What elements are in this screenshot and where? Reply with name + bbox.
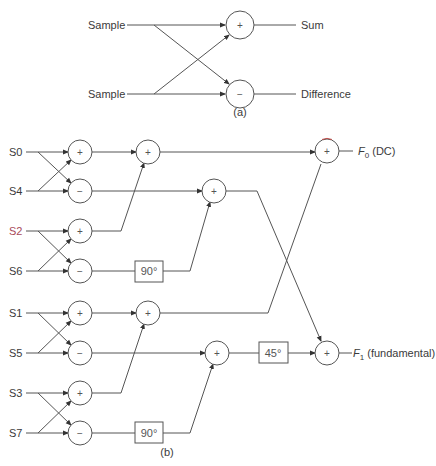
wire-a-cross-down	[154, 25, 229, 84]
butterfly-s0-s4	[26, 152, 71, 191]
plus-icon: +	[214, 348, 220, 359]
input-label-s3: S3	[9, 387, 22, 399]
minus-icon: −	[237, 89, 243, 100]
butterfly-s1-s5	[26, 313, 71, 353]
input-label-s7: S7	[9, 427, 22, 439]
input-label-sample-top: Sample	[88, 19, 125, 31]
stage3-nodes: + +	[315, 138, 339, 365]
stage2-nodes: + + + +	[136, 140, 229, 365]
stage1-to-stage2-wires: 90° 90°	[92, 152, 213, 443]
input-label-s2: S2	[9, 225, 22, 237]
plus-icon: +	[211, 186, 217, 197]
phase-label-90-upper: 90°	[141, 265, 158, 277]
input-label-s0: S0	[9, 146, 22, 158]
minus-icon: −	[77, 428, 83, 439]
minus-icon: −	[77, 266, 83, 277]
caption-a: (a)	[233, 106, 246, 118]
butterfly-s2-s6	[26, 231, 71, 271]
plus-icon: +	[77, 308, 83, 319]
plus-icon: +	[145, 308, 151, 319]
outputs: F0 (DC) F1 (fundamental)	[339, 145, 435, 362]
output-label-sum: Sum	[301, 19, 324, 31]
plus-icon: +	[145, 147, 151, 158]
input-label-s6: S6	[9, 265, 22, 277]
diagram-b: S0 S4 S2 S6 S1 S5 S3 S7	[9, 138, 435, 458]
plus-icon: +	[324, 348, 330, 359]
output-label-difference: Difference	[301, 88, 351, 100]
fft-butterfly-diagram: Sample Sample + − Sum Difference (a) S0 …	[0, 0, 436, 466]
wire-a-cross-up	[154, 35, 229, 94]
plus-icon: +	[324, 146, 330, 157]
phase-label-90-lower: 90°	[141, 427, 158, 439]
plus-icon: +	[77, 226, 83, 237]
caption-b: (b)	[160, 446, 173, 458]
input-label-s5: S5	[9, 347, 22, 359]
input-label-s4: S4	[9, 185, 22, 197]
diagram-a: Sample Sample + − Sum Difference (a)	[88, 11, 351, 118]
output-label-f1: F1 (fundamental)	[353, 347, 435, 362]
input-label-sample-bottom: Sample	[88, 88, 125, 100]
output-label-f0: F0 (DC)	[358, 145, 395, 160]
stage2-to-stage3-wires: 45°	[160, 152, 321, 363]
stage1-nodes: + − + − + − + −	[68, 140, 92, 445]
plus-icon: +	[237, 20, 243, 31]
butterfly-s3-s7	[26, 393, 71, 433]
phase-label-45: 45°	[265, 347, 282, 359]
plus-icon: +	[77, 147, 83, 158]
minus-icon: −	[77, 348, 83, 359]
input-label-s1: S1	[9, 307, 22, 319]
plus-icon: +	[77, 388, 83, 399]
minus-icon: −	[77, 186, 83, 197]
